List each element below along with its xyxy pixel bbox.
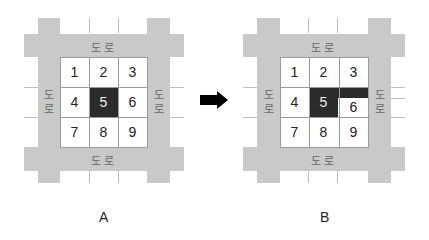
road-label-char: 로	[42, 102, 56, 116]
grid-extension-line	[118, 170, 119, 183]
diagram-a: 도로 도로 도 로 도 로 1 2 3 4 5 6 7 8 9	[0, 0, 200, 190]
grid-extension-line	[391, 117, 405, 118]
road-label-char: 도	[373, 88, 387, 102]
lot-9: 9	[118, 117, 147, 147]
road-label-right: 도 로	[373, 88, 387, 116]
road-label-bottom: 도로	[304, 152, 344, 168]
caption-b: B	[320, 209, 329, 225]
road-label-right: 도 로	[152, 88, 166, 116]
lot-9: 9	[339, 117, 368, 147]
lot-8: 8	[89, 117, 118, 147]
grid-extension-line	[118, 18, 119, 33]
road-label-char: 로	[152, 102, 166, 116]
grid-line	[280, 87, 368, 88]
grid-line	[60, 87, 147, 88]
grid-extension-line	[337, 18, 338, 33]
caption-a: A	[99, 209, 108, 225]
road-label-char: 로	[373, 102, 387, 116]
lot-1: 1	[60, 57, 89, 87]
grid-line	[89, 57, 90, 147]
road-label-char: 도	[42, 88, 56, 102]
lot-2: 2	[309, 57, 338, 87]
lot-3: 3	[339, 57, 368, 87]
road-label-top: 도로	[304, 39, 344, 55]
grid-extension-line	[243, 117, 257, 118]
lot-2: 2	[89, 57, 118, 87]
lot-5-occupied: 5	[309, 87, 338, 117]
road-label-top: 도로	[84, 39, 124, 55]
occupied-extension-over-lot-6	[338, 87, 368, 98]
grid-extension-line	[308, 18, 309, 33]
road-label-char: 도	[152, 88, 166, 102]
grid-extension-line	[391, 98, 405, 99]
lot-5-occupied: 5	[89, 87, 118, 117]
lot-4: 4	[280, 87, 309, 117]
road-label-left: 도 로	[262, 88, 276, 116]
grid-line	[60, 117, 147, 118]
road-label-left: 도 로	[42, 88, 56, 116]
grid-extension-line	[391, 87, 405, 88]
lot-6: 6	[118, 87, 147, 117]
grid-extension-line	[170, 117, 184, 118]
lot-7: 7	[280, 117, 309, 147]
diagram-b: 도로 도로 도 로 도 로 1 2 3 4 5 6 7 8 9	[219, 0, 419, 190]
grid-extension-line	[337, 170, 338, 183]
grid-extension-line	[24, 87, 38, 88]
grid-line	[339, 57, 340, 147]
grid-extension-line	[24, 117, 38, 118]
lot-4: 4	[60, 87, 89, 117]
grid-extension-line	[243, 87, 257, 88]
road-label-char: 도	[262, 88, 276, 102]
grid-extension-line	[89, 170, 90, 183]
grid-line	[280, 117, 368, 118]
lot-3: 3	[118, 57, 147, 87]
road-label-char: 로	[262, 102, 276, 116]
grid-extension-line	[170, 87, 184, 88]
lot-8: 8	[309, 117, 338, 147]
grid-extension-line	[89, 18, 90, 33]
grid-line	[118, 57, 119, 147]
grid-line	[309, 57, 310, 147]
lot-1: 1	[280, 57, 309, 87]
road-label-bottom: 도로	[84, 152, 124, 168]
grid-extension-line	[308, 170, 309, 183]
lot-7: 7	[60, 117, 89, 147]
